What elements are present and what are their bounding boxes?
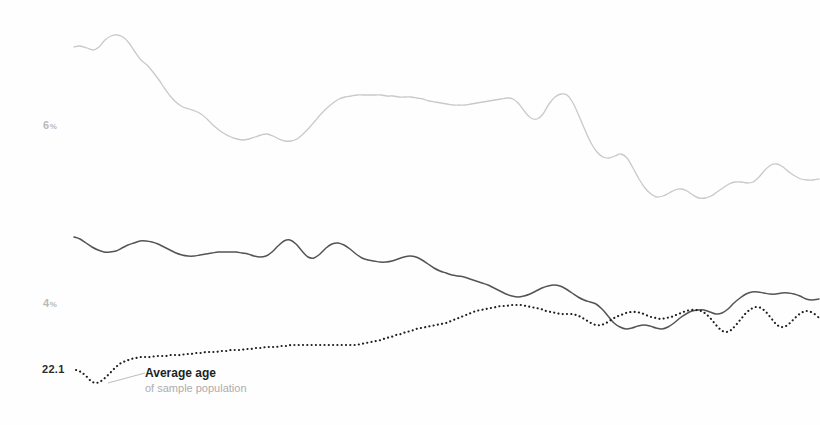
y-axis-tick-6-suffix: %	[50, 122, 57, 131]
y-axis-tick-4: 4%	[43, 297, 57, 309]
y-axis-tick-4-suffix: %	[50, 300, 57, 309]
average-age-value-label: 22.1	[42, 363, 65, 375]
y-axis-tick-6-value: 6	[43, 119, 49, 131]
annotation-leader-line	[108, 373, 145, 383]
chart-container: 6% 4% 22.1 Average age of sample populat…	[0, 0, 820, 425]
average-age-annotation: Average age of sample population	[145, 366, 335, 395]
annotation-subtitle: of sample population	[145, 381, 335, 395]
series-line-upper-trend	[74, 35, 819, 198]
y-axis-tick-6: 6%	[43, 119, 57, 131]
y-axis-tick-4-value: 4	[43, 297, 49, 309]
annotation-leader-line-layer	[108, 373, 145, 383]
annotation-title: Average age	[145, 366, 335, 380]
chart-plot-area	[0, 0, 820, 425]
series-layer	[74, 35, 819, 383]
